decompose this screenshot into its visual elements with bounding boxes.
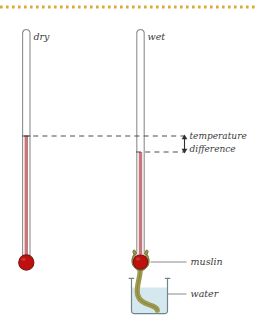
muslin-tie-left: [133, 250, 137, 255]
muslin-callout: muslin: [151, 256, 223, 267]
dry-bulb-thermometer: dry: [19, 30, 50, 271]
temperature-difference-annotation: temperature difference: [182, 131, 247, 154]
arrow-head-down-icon: [182, 149, 188, 154]
arrow-head-up-icon: [182, 134, 188, 139]
dry-mercury-column: [25, 136, 28, 256]
wet-bulb-thermometer: wet: [137, 30, 165, 254]
dry-bulb-highlight: [21, 258, 26, 262]
muslin-label: muslin: [191, 256, 223, 267]
water-label: water: [191, 288, 220, 299]
wet-mercury-column: [139, 152, 142, 254]
dry-label: dry: [34, 31, 51, 42]
dry-bulb: [19, 255, 34, 270]
temperature-difference-label-line1: temperature: [190, 131, 247, 141]
temperature-difference-label-line2: difference: [190, 144, 236, 154]
wet-bulb: [133, 255, 147, 269]
water-beaker: [129, 278, 170, 313]
wet-label: wet: [148, 31, 166, 42]
muslin-tie-right: [145, 250, 149, 255]
temperature-level-lines: [22, 136, 184, 152]
hygrometer-diagram: dry wet: [0, 0, 255, 325]
wet-bulb-highlight: [136, 257, 141, 260]
water-callout: water: [168, 288, 220, 299]
